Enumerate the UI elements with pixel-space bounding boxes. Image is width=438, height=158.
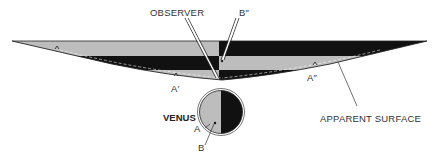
point-b-double-prime xyxy=(221,60,223,62)
label-b-double-prime: B″ xyxy=(239,7,250,18)
apparent-surface-funnel xyxy=(0,41,438,82)
apparent-surface-leader xyxy=(338,62,357,106)
label-apparent-surface: APPARENT SURFACE xyxy=(320,113,421,124)
label-venus: VENUS xyxy=(163,112,196,123)
point-b-dot xyxy=(214,122,216,124)
label-a-double-prime: A″ xyxy=(307,72,318,83)
label-a-prime: A′ xyxy=(171,83,180,94)
venus-planet xyxy=(198,89,245,136)
label-observer: OBSERVER xyxy=(150,7,204,18)
label-b: B xyxy=(198,142,205,153)
venus-apparent-surface-diagram: OBSERVER B″ A′ A″ APPARENT SURFACE VENUS… xyxy=(0,0,438,158)
label-a: A xyxy=(194,123,201,134)
